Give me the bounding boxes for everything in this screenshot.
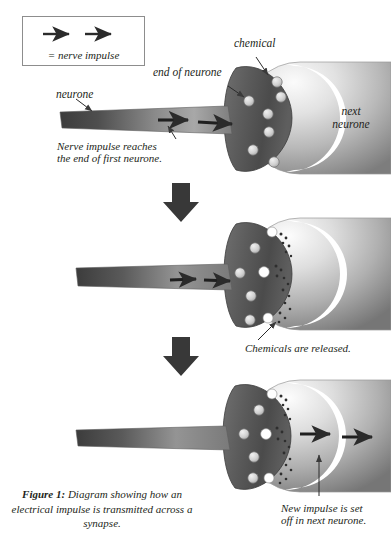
note-chemicals-released: Chemicals are released. bbox=[245, 342, 391, 354]
neurone-axon bbox=[60, 106, 232, 134]
panel-middle-artwork bbox=[76, 218, 391, 340]
label-next-neurone: next neurone bbox=[321, 105, 381, 131]
figure-caption-label: Figure 1: bbox=[22, 488, 65, 500]
note-impulse-reaches: Nerve impulse reaches the end of first n… bbox=[57, 140, 212, 165]
flow-down-arrow-2 bbox=[163, 337, 199, 376]
label-end-of-neurone: end of neurone bbox=[153, 66, 222, 79]
note-new-impulse-line1: New impulse is set bbox=[281, 502, 363, 514]
note-new-impulse: New impulse is set off in next neurone. bbox=[281, 502, 391, 527]
flow-down-arrow-1 bbox=[163, 183, 199, 222]
label-chemical: chemical bbox=[234, 37, 276, 50]
leader-lines-middle bbox=[258, 322, 276, 340]
synapse-diagram-artwork bbox=[0, 0, 391, 556]
legend-arrow-icons bbox=[23, 20, 144, 48]
neurone-axon-2 bbox=[76, 264, 232, 290]
note-new-impulse-line2: off in next neurone. bbox=[281, 514, 366, 526]
label-next-neurone-line2: neurone bbox=[332, 118, 369, 130]
diagram-canvas: = nerve impulse neurone end of neurone c… bbox=[0, 0, 391, 556]
legend-box: = nerve impulse bbox=[22, 16, 145, 66]
note-impulse-reaches-line1: Nerve impulse reaches bbox=[57, 140, 157, 152]
label-neurone: neurone bbox=[56, 88, 93, 101]
neurone-axon-3 bbox=[76, 426, 230, 450]
label-next-neurone-line1: next bbox=[341, 105, 360, 117]
figure-caption: Figure 1: Diagram showing how an electri… bbox=[4, 487, 200, 531]
note-impulse-reaches-line2: the end of first neurone. bbox=[57, 152, 162, 164]
panel-bottom-artwork bbox=[76, 380, 391, 496]
legend-label: = nerve impulse bbox=[23, 49, 144, 61]
